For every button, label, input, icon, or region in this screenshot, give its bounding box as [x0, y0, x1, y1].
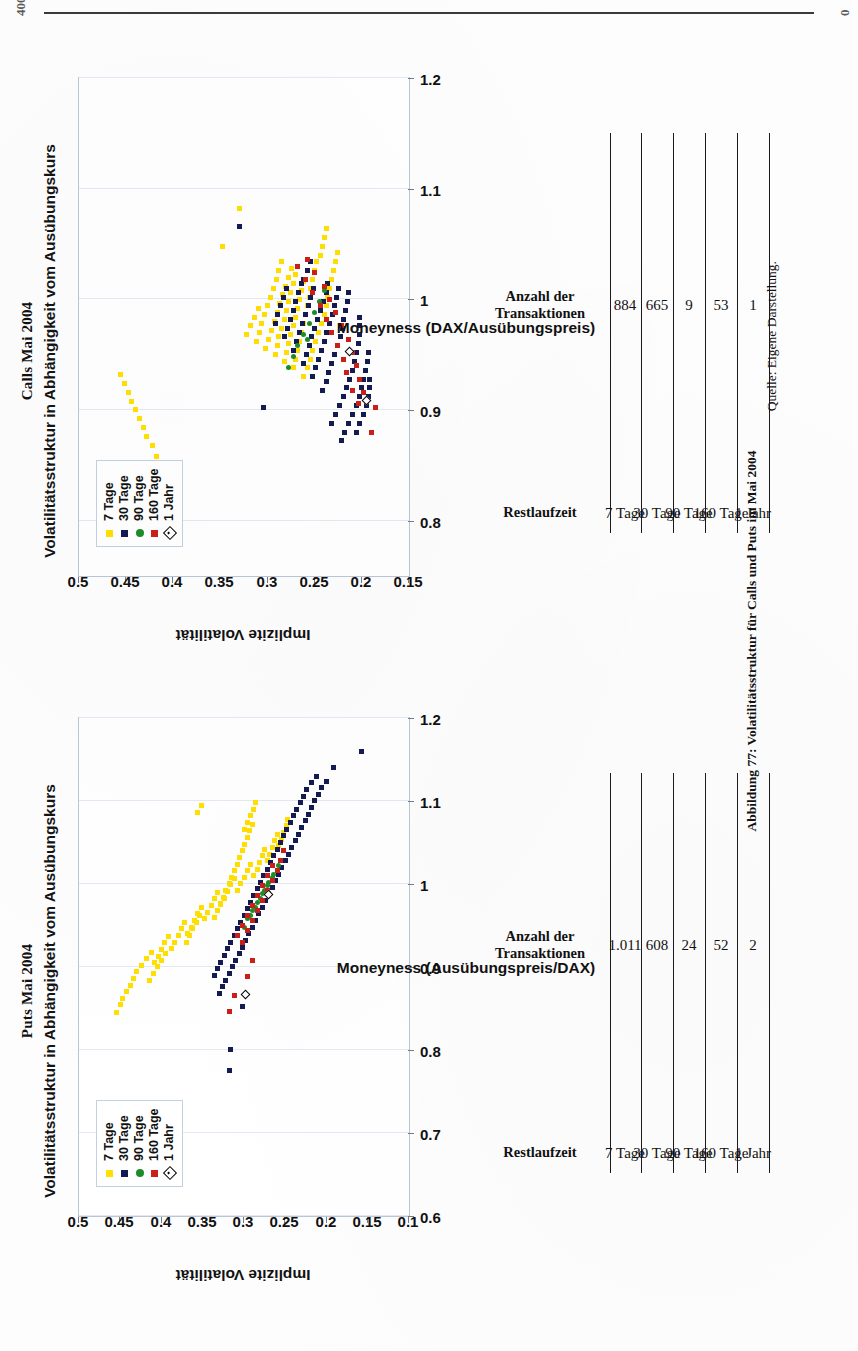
data-point	[220, 244, 225, 249]
data-point	[327, 321, 332, 326]
data-point	[149, 950, 154, 955]
legend-marker	[136, 527, 144, 540]
x-tick	[408, 78, 414, 79]
data-point	[291, 308, 296, 313]
data-point	[222, 953, 227, 958]
legend-item[interactable]: 30 Tage	[117, 468, 132, 540]
data-point	[332, 303, 337, 308]
data-point	[289, 845, 294, 850]
data-point	[346, 421, 351, 426]
data-point	[227, 1009, 232, 1014]
legend-item[interactable]: 7 Tage	[102, 468, 117, 540]
table-row-rule	[705, 133, 706, 533]
legend-label: 1 Jahr	[163, 1124, 176, 1161]
legend-item[interactable]: 90 Tage	[132, 1108, 147, 1180]
data-point	[354, 363, 359, 368]
data-point	[350, 368, 355, 373]
table-cell-anzahl: 24	[682, 938, 697, 953]
data-point	[307, 343, 312, 348]
data-point	[303, 312, 308, 317]
data-point	[312, 799, 317, 804]
data-point	[248, 323, 253, 328]
data-point	[310, 277, 315, 282]
data-point	[237, 855, 242, 860]
legend-marker-square-icon	[151, 530, 158, 537]
data-point	[346, 290, 351, 295]
data-point	[212, 896, 217, 901]
data-point	[339, 439, 344, 444]
data-point	[275, 847, 280, 852]
legend-item[interactable]: 1 Jahr	[162, 1108, 177, 1180]
table-header-restlaufzeit: Restlaufzeit	[503, 504, 576, 521]
x-tick-label: 1	[420, 878, 428, 893]
table-cell-anzahl: 608	[646, 938, 669, 953]
data-point	[301, 361, 306, 366]
table-row-rule	[737, 133, 738, 533]
data-point	[144, 434, 149, 439]
legend-marker-square-icon	[151, 1170, 158, 1177]
data-point	[166, 934, 171, 939]
legend-item[interactable]: 1 Jahr	[162, 468, 177, 540]
y-tick-label: 0.25	[299, 574, 328, 589]
x-tick-label: 1.1	[420, 795, 441, 810]
data-point	[212, 915, 217, 920]
data-point	[312, 270, 317, 275]
data-point	[274, 277, 279, 282]
data-point	[255, 893, 260, 898]
data-point	[288, 317, 293, 322]
data-point	[225, 946, 230, 951]
data-point	[344, 370, 349, 375]
data-point	[253, 800, 258, 805]
table-cell-anzahl: 665	[646, 298, 669, 313]
data-point	[367, 377, 372, 382]
data-point	[218, 960, 223, 965]
table-cell-anzahl: 1.011	[609, 938, 642, 953]
data-point	[279, 259, 284, 264]
data-point	[305, 268, 310, 273]
legend-label: 1 Jahr	[163, 484, 176, 521]
legend-marker-square-icon	[121, 530, 128, 537]
data-point	[322, 235, 327, 240]
x-axis-title: Moneyness (DAX/Ausübungspreis)	[337, 320, 595, 336]
data-point	[271, 286, 276, 291]
data-point	[217, 991, 222, 996]
legend-puts: 7 Tage30 Tage90 Tage160 Tage1 Jahr	[96, 1100, 183, 1187]
data-point	[318, 253, 323, 258]
legend-label: 30 Tage	[118, 475, 131, 521]
legend-item[interactable]: 30 Tage	[117, 1108, 132, 1180]
data-point	[155, 965, 160, 970]
data-point	[265, 303, 270, 308]
x-tick	[408, 521, 414, 522]
data-point	[284, 308, 289, 313]
data-point	[260, 883, 265, 888]
data-point	[295, 306, 300, 311]
data-point	[228, 1048, 233, 1053]
data-point	[260, 898, 265, 903]
x-tick	[408, 299, 414, 300]
x-tick-label: 0.8	[420, 514, 441, 529]
data-point	[275, 868, 280, 873]
data-point	[336, 286, 341, 291]
data-point	[301, 374, 306, 379]
data-point	[199, 905, 204, 910]
legend-label: 30 Tage	[118, 1115, 131, 1161]
data-point	[202, 916, 207, 921]
data-point	[122, 381, 127, 386]
y-tick-label: 0.25	[270, 1214, 299, 1229]
legend-item[interactable]: 160 Tage	[147, 1108, 162, 1180]
legend-item[interactable]: 160 Tage	[147, 468, 162, 540]
data-point	[310, 290, 315, 295]
data-point	[172, 940, 177, 945]
legend-item[interactable]: 7 Tage	[102, 1108, 117, 1180]
data-point	[335, 250, 340, 255]
data-point	[331, 268, 336, 273]
data-point	[305, 365, 310, 370]
data-point	[240, 923, 245, 928]
legend-item[interactable]: 90 Tage	[132, 468, 147, 540]
data-point	[342, 430, 347, 435]
legend-calls: 7 Tage30 Tage90 Tage160 Tage1 Jahr	[96, 460, 183, 547]
table-row-rule	[673, 133, 674, 533]
legend-marker	[151, 1167, 158, 1180]
gridline-x	[79, 298, 409, 299]
data-point	[298, 800, 303, 805]
